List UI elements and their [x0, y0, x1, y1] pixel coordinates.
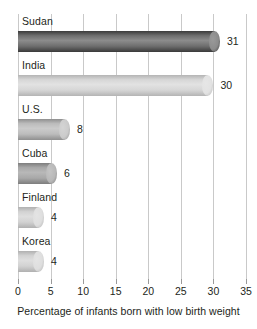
x-axis-title: Percentage of infants born with low birt… [0, 305, 257, 317]
bar-body [18, 31, 215, 52]
bar-value-label: 31 [227, 35, 239, 47]
bar [18, 251, 44, 272]
bar-row: Korea4 [18, 234, 246, 278]
plot-area: Sudan31India30U.S.8Cuba6Finland4Korea4 [18, 14, 246, 279]
tick-label: 20 [142, 285, 154, 297]
bar [18, 163, 57, 184]
category-label: U.S. [22, 102, 43, 116]
tick-mark [181, 279, 182, 284]
tick-mark [83, 279, 84, 284]
bar [18, 31, 220, 52]
tick-label: 0 [15, 285, 21, 297]
tick-label: 25 [175, 285, 187, 297]
category-label: Korea [22, 234, 51, 248]
bar-value-label: 4 [51, 211, 57, 223]
tick-mark [51, 279, 52, 284]
bar-chart: Sudan31India30U.S.8Cuba6Finland4Korea4 0… [0, 0, 257, 329]
category-label: Finland [22, 190, 57, 204]
bar-row: Sudan31 [18, 14, 246, 58]
bar-value-label: 6 [64, 167, 70, 179]
bar-end-cap [46, 163, 57, 184]
tick-label: 5 [48, 285, 54, 297]
bar-body [18, 75, 208, 96]
tick-label: 30 [208, 285, 220, 297]
bar-end-cap [202, 75, 213, 96]
category-label: Sudan [22, 14, 53, 28]
bar-end-cap [33, 251, 44, 272]
bar [18, 207, 44, 228]
bar-end-cap [59, 119, 70, 140]
bar-row: India30 [18, 58, 246, 102]
bar-end-cap [33, 207, 44, 228]
bar-value-label: 4 [51, 255, 57, 267]
bar-end-cap [209, 31, 220, 52]
tick-label: 15 [110, 285, 122, 297]
bar-row: U.S.8 [18, 102, 246, 146]
category-label: Cuba [22, 146, 48, 160]
bar-body [18, 119, 65, 140]
bar-value-label: 30 [220, 79, 232, 91]
tick-mark [148, 279, 149, 284]
gridline-35 [246, 14, 247, 279]
tick-label: 35 [240, 285, 252, 297]
tick-mark [246, 279, 247, 284]
bar-value-label: 8 [77, 123, 83, 135]
category-label: India [22, 58, 45, 72]
bar [18, 75, 213, 96]
tick-mark [18, 279, 19, 284]
bar [18, 119, 70, 140]
tick-mark [213, 279, 214, 284]
bar-row: Cuba6 [18, 146, 246, 190]
tick-mark [116, 279, 117, 284]
tick-label: 10 [77, 285, 89, 297]
x-axis: 05101520253035 [18, 279, 246, 301]
bar-row: Finland4 [18, 190, 246, 234]
